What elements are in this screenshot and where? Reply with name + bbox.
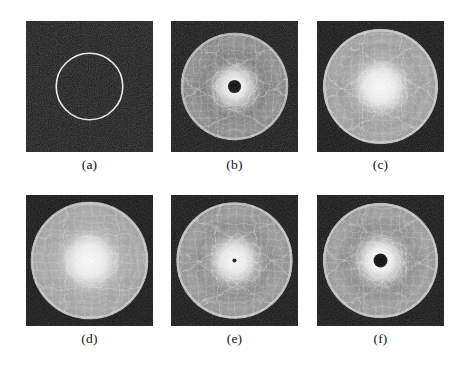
panel-b xyxy=(171,21,298,152)
figure-panel-grid: (a)(b)(c)(d)(e)(f) xyxy=(0,0,463,374)
panel-label-d: (d) xyxy=(26,332,153,346)
panel-image-b xyxy=(171,21,298,152)
panel-label-c: (c) xyxy=(317,158,444,172)
panel-label-f: (f) xyxy=(317,332,444,346)
panel-f xyxy=(317,195,444,326)
panel-d xyxy=(26,195,153,326)
panel-label-a: (a) xyxy=(26,158,153,172)
panel-image-e xyxy=(171,195,298,326)
panel-image-f xyxy=(317,195,444,326)
panel-image-d xyxy=(26,195,153,326)
panel-image-a xyxy=(26,21,153,152)
panel-label-e: (e) xyxy=(171,332,298,346)
panel-a xyxy=(26,21,153,152)
panel-e xyxy=(171,195,298,326)
panel-c xyxy=(317,21,444,152)
panel-label-b: (b) xyxy=(171,158,298,172)
panel-image-c xyxy=(317,21,444,152)
